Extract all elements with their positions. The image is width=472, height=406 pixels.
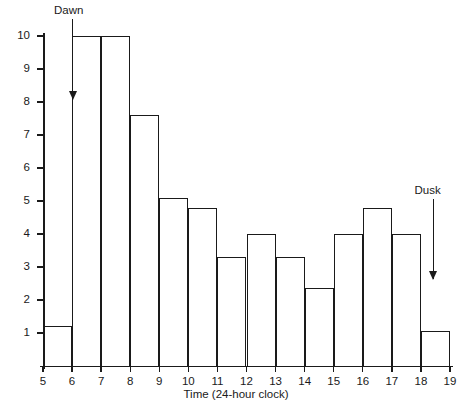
x-axis-tick-label: 18	[408, 375, 434, 387]
annotation-label-dawn: Dawn	[54, 4, 83, 16]
x-axis-tick-label: 13	[263, 375, 289, 387]
bar	[43, 326, 72, 366]
x-axis-tick-label: 7	[88, 375, 114, 387]
bar	[392, 234, 421, 366]
bar	[363, 208, 392, 366]
x-axis-tick-label: 16	[350, 375, 376, 387]
bar	[188, 208, 217, 366]
y-axis-tick-label: 1	[8, 327, 30, 339]
bar	[421, 331, 450, 366]
x-axis-title: Time (24-hour clock)	[0, 388, 472, 401]
x-axis-tick	[42, 366, 43, 372]
x-axis-tick-label: 14	[292, 375, 318, 387]
x-axis-tick	[275, 366, 276, 372]
x-axis-tick	[391, 366, 392, 372]
x-axis-tick-label: 12	[234, 375, 260, 387]
bar	[130, 115, 159, 366]
x-axis-tick	[100, 366, 101, 372]
x-axis-tick	[71, 366, 72, 372]
x-axis-tick-label: 6	[59, 375, 85, 387]
bar	[305, 288, 334, 366]
bar-chart: 12345678910 5678910111213141516171819 Da…	[0, 0, 472, 406]
y-axis-tick-label: 9	[8, 63, 30, 75]
x-axis-tick-label: 17	[379, 375, 405, 387]
bar	[334, 234, 363, 366]
x-axis-tick	[130, 366, 131, 372]
y-axis-tick-label: 6	[8, 162, 30, 174]
bar	[276, 257, 305, 366]
annotation-label-dusk: Dusk	[415, 184, 441, 196]
x-axis-tick	[217, 366, 218, 372]
x-axis-tick	[362, 366, 363, 372]
y-axis-tick-label: 8	[8, 96, 30, 108]
y-axis-tick-label: 7	[8, 129, 30, 141]
y-axis-tick-label: 3	[8, 261, 30, 273]
x-axis-tick-label: 11	[204, 375, 230, 387]
arrow-head	[429, 271, 437, 280]
x-axis-tick-label: 10	[175, 375, 201, 387]
x-axis-tick-label: 5	[30, 375, 56, 387]
arrow-shaft	[72, 19, 73, 99]
x-axis-tick	[159, 366, 160, 372]
x-axis-tick-label: 9	[146, 375, 172, 387]
bar	[247, 234, 276, 366]
x-axis-tick	[304, 366, 305, 372]
x-axis-tick	[188, 366, 189, 372]
bar	[159, 198, 188, 366]
x-axis-tick-label: 19	[437, 375, 463, 387]
x-axis-tick	[420, 366, 421, 372]
x-axis-tick-label: 15	[321, 375, 347, 387]
arrow-shaft	[433, 199, 434, 279]
bar	[101, 36, 130, 366]
y-axis-tick-label: 10	[8, 30, 30, 42]
y-axis-tick-label: 5	[8, 195, 30, 207]
x-axis-tick	[246, 366, 247, 372]
bar	[217, 257, 246, 366]
bar	[72, 36, 101, 366]
y-axis-tick-label: 2	[8, 294, 30, 306]
x-axis-tick-label: 8	[117, 375, 143, 387]
y-axis-tick-label: 4	[8, 228, 30, 240]
x-axis-tick	[333, 366, 334, 372]
x-axis-tick	[449, 366, 450, 372]
bars-group	[43, 36, 450, 366]
arrow-head	[69, 91, 77, 100]
